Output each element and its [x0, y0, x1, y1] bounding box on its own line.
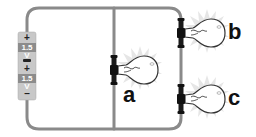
socket-a — [110, 55, 118, 85]
bulb-a-label: a — [123, 84, 135, 106]
bulb-b — [185, 9, 229, 53]
socket-b — [177, 18, 185, 48]
socket-c — [177, 84, 185, 114]
bulb-c-label: c — [228, 87, 240, 109]
cell-2-positive-sign: + — [18, 64, 36, 74]
circuit-diagram — [0, 0, 256, 137]
cell-1-positive-sign: + — [18, 33, 36, 43]
cell-1-voltage-label: 1.5 V — [18, 44, 36, 60]
bulb-b-label: b — [228, 21, 241, 43]
battery-negative-sign: – — [18, 89, 36, 99]
bulb-c — [185, 75, 229, 119]
